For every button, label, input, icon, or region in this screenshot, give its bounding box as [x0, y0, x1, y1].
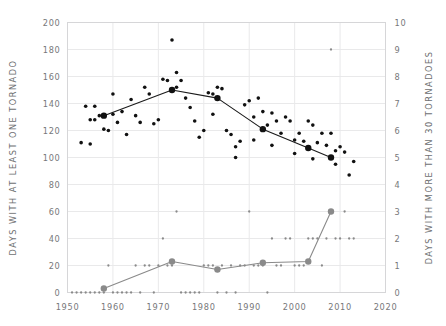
data-point [175, 210, 177, 212]
right-tick-label: 0 [395, 288, 401, 298]
tornado-days-chart: 0204060801001201401601802000123456789101… [0, 0, 446, 326]
data-point [353, 237, 355, 239]
data-point [161, 77, 165, 81]
right-axis-ticks: 012345678910 [395, 18, 407, 298]
data-point [297, 131, 301, 135]
data-point [343, 210, 345, 212]
right-axis-title: DAYS WITH MORE THAN 30 TORNADOES [424, 51, 434, 265]
data-point [138, 121, 142, 125]
x-axis-ticks: 19501960197019801990200020102020 [56, 302, 398, 312]
data-point [166, 79, 170, 83]
data-point [75, 291, 77, 293]
data-point [144, 264, 146, 266]
data-point [316, 141, 320, 145]
data-point [306, 119, 310, 123]
trend-node [328, 154, 334, 160]
data-point [330, 48, 332, 50]
right-tick-label: 7 [395, 99, 401, 109]
data-point [116, 121, 120, 125]
data-point [302, 140, 306, 144]
data-point [71, 291, 73, 293]
data-point [103, 291, 105, 293]
data-point [311, 157, 315, 161]
data-point [325, 144, 329, 148]
data-point [162, 237, 164, 239]
x-tick-label: 2000 [283, 302, 307, 312]
data-point [134, 114, 138, 118]
right-tick-label: 6 [395, 126, 401, 136]
left-tick-label: 160 [43, 72, 61, 82]
data-point [216, 291, 218, 293]
data-point [225, 129, 229, 133]
data-point [243, 103, 247, 107]
left-tick-label: 40 [49, 234, 61, 244]
data-point [175, 86, 179, 90]
data-point [347, 173, 351, 177]
data-point [207, 91, 211, 95]
data-point [153, 291, 155, 293]
data-point [270, 111, 274, 115]
data-point [225, 291, 227, 293]
left-axis-title: DAYS WITH AT LEAST ONE TORNADO [8, 60, 18, 256]
trend-node [101, 285, 107, 291]
data-point [275, 119, 279, 123]
left-tick-label: 0 [55, 288, 61, 298]
data-point [284, 237, 286, 239]
data-point [230, 264, 232, 266]
data-point [248, 210, 250, 212]
data-point [125, 133, 129, 137]
series-2 [71, 48, 355, 293]
data-point [184, 96, 188, 100]
data-point [134, 264, 136, 266]
data-point [293, 138, 297, 142]
trend-node [305, 145, 311, 151]
data-point [320, 131, 324, 135]
data-point [270, 144, 274, 148]
x-tick-label: 1960 [101, 302, 125, 312]
x-tick-label: 1950 [56, 302, 80, 312]
data-point [252, 115, 256, 119]
left-tick-label: 100 [43, 153, 61, 163]
data-point [234, 145, 238, 149]
data-point [275, 264, 277, 266]
data-point [211, 113, 215, 117]
trend-node [305, 258, 311, 264]
data-point [130, 291, 132, 293]
data-point [280, 264, 282, 266]
data-point [85, 291, 87, 293]
data-point [334, 162, 338, 166]
data-point [229, 133, 233, 137]
x-tick-label: 1970 [147, 302, 171, 312]
data-point [247, 99, 251, 103]
data-point [175, 71, 179, 75]
data-point [88, 142, 92, 146]
data-point [79, 141, 83, 145]
data-point [266, 123, 270, 127]
series-0 [79, 38, 355, 177]
data-point [261, 110, 265, 114]
data-point [121, 291, 123, 293]
data-point [166, 264, 168, 266]
data-point [211, 92, 215, 96]
data-point [307, 237, 309, 239]
trend-node [260, 126, 266, 132]
data-point [338, 145, 342, 149]
chart-canvas: 0204060801001201401601802000123456789101… [0, 0, 446, 326]
data-point [257, 96, 261, 100]
data-point [94, 291, 96, 293]
data-point [116, 291, 118, 293]
data-point [238, 140, 242, 144]
data-point [107, 129, 111, 133]
data-point [334, 237, 336, 239]
left-tick-label: 180 [43, 45, 61, 55]
data-point [203, 264, 205, 266]
series-3 [101, 208, 335, 291]
data-point [271, 237, 273, 239]
data-point [88, 118, 92, 122]
data-point [216, 86, 220, 90]
data-point [112, 291, 114, 293]
right-tick-label: 4 [395, 180, 401, 190]
right-tick-label: 3 [395, 207, 401, 217]
data-point [207, 264, 209, 266]
data-point [193, 119, 197, 123]
